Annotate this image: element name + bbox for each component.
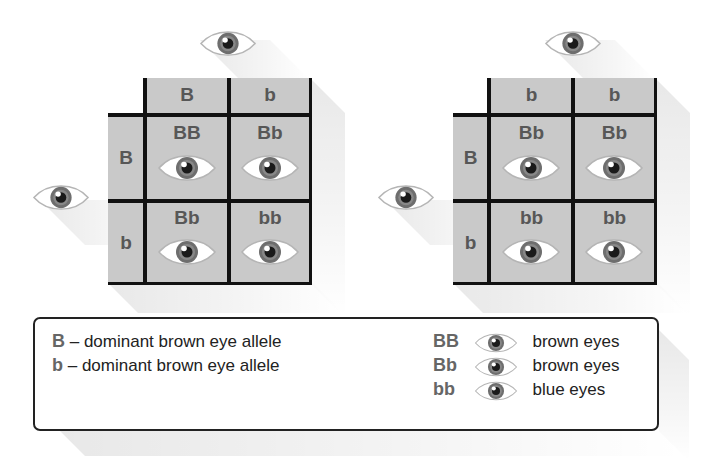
- legend-box: B – dominant brown eye allele b – domina…: [33, 317, 659, 431]
- legend-phenotype-row: Bb brown eyes: [433, 355, 619, 379]
- eye-icon: [157, 152, 217, 184]
- grid-line: [453, 113, 657, 117]
- eye-icon: [474, 355, 518, 379]
- genotype-label: Bb: [574, 122, 655, 144]
- grid-line: [108, 199, 312, 203]
- phenotype-label: blue eyes: [532, 380, 605, 399]
- eye-icon: [157, 236, 217, 268]
- eye-icon: [584, 152, 644, 184]
- top-allele-label: b: [230, 84, 310, 106]
- genotype-label: Bb: [230, 122, 310, 144]
- legend-allele-row: b – dominant brown eye allele: [52, 355, 279, 376]
- genotype-label: bb: [491, 207, 572, 229]
- parent-eye-icon-top: [199, 28, 257, 59]
- side-allele-label: b: [453, 232, 488, 254]
- legend-allele-row: B – dominant brown eye allele: [52, 331, 281, 352]
- genotype-label: bb: [574, 207, 655, 229]
- genotype-label: bb: [230, 207, 310, 229]
- legend-phenotype-row: BB brown eyes: [433, 331, 619, 355]
- side-allele-label: B: [453, 147, 488, 169]
- grid-line: [571, 78, 575, 285]
- allele-symbol: b: [52, 355, 63, 375]
- parent-eye-icon-side: [377, 182, 435, 213]
- phenotype-label: brown eyes: [532, 332, 619, 351]
- allele-description: – dominant brown eye allele: [68, 356, 280, 375]
- eye-icon: [240, 152, 300, 184]
- top-allele-label: B: [146, 84, 228, 106]
- allele-symbol: B: [52, 331, 65, 351]
- parent-eye-icon-side: [32, 182, 90, 213]
- grid-line: [108, 282, 312, 285]
- genotype-symbol: bb: [433, 379, 469, 400]
- grid-line: [654, 78, 657, 285]
- genotype-label: BB: [146, 122, 228, 144]
- eye-icon: [501, 236, 561, 268]
- side-allele-label: B: [108, 147, 144, 169]
- genotype-symbol: BB: [433, 331, 469, 352]
- allele-description: – dominant brown eye allele: [70, 332, 282, 351]
- genotype-symbol: Bb: [433, 355, 469, 376]
- eye-icon: [501, 152, 561, 184]
- grid-line: [453, 282, 657, 285]
- eye-icon: [474, 331, 518, 355]
- eye-icon: [474, 379, 518, 403]
- eye-icon: [584, 236, 644, 268]
- top-allele-label: b: [574, 84, 655, 106]
- top-allele-label: b: [491, 84, 572, 106]
- parent-eye-icon-top: [544, 28, 602, 59]
- side-allele-label: b: [108, 232, 144, 254]
- genotype-label: Bb: [146, 207, 228, 229]
- grid-line: [227, 78, 231, 285]
- legend-phenotype-row: bb blue eyes: [433, 379, 605, 403]
- grid-line: [453, 199, 657, 203]
- genotype-label: Bb: [491, 122, 572, 144]
- grid-line: [309, 78, 312, 285]
- grid-line: [108, 113, 312, 117]
- phenotype-label: brown eyes: [532, 356, 619, 375]
- eye-icon: [240, 236, 300, 268]
